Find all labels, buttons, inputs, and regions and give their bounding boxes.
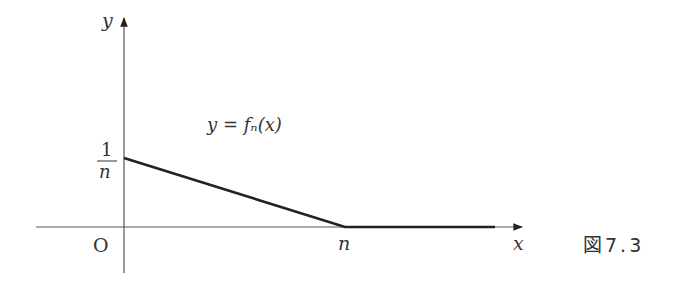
y-intercept-denominator: n — [99, 161, 111, 182]
function-graph: y x O 1 n n y = fₙ(x) 図7.3 — [0, 0, 676, 285]
function-label: y = fₙ(x) — [206, 114, 282, 135]
origin-label: O — [93, 234, 109, 256]
x-axis-label: x — [513, 232, 524, 254]
function-curve — [124, 158, 495, 227]
y-intercept-numerator: 1 — [101, 139, 112, 160]
x-intercept-label: n — [338, 232, 350, 254]
y-axis-label: y — [101, 9, 113, 31]
figure-caption: 図7.3 — [583, 234, 644, 256]
